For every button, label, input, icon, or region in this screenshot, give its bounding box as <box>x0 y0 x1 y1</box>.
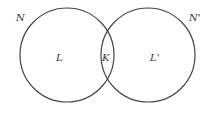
right-circle <box>101 8 195 102</box>
label-l: L <box>55 52 63 63</box>
left-circle <box>20 8 114 102</box>
venn-diagram: N N' L K L' <box>0 0 209 113</box>
venn-svg: N N' L K L' <box>0 0 209 113</box>
label-k: K <box>101 52 110 63</box>
label-n-prime: N' <box>188 12 201 23</box>
label-l-prime: L' <box>149 52 159 63</box>
label-n: N <box>15 12 26 23</box>
